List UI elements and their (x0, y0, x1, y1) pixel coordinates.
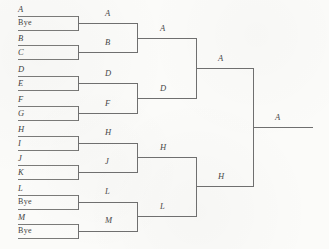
seed-label-bye: Bye (18, 198, 32, 206)
semifinal-winner-label: H (218, 172, 224, 181)
seed-label: D (18, 65, 24, 74)
seed-label: M (18, 213, 25, 222)
round3-winner-label: A (160, 24, 165, 33)
seed-label: L (18, 184, 23, 193)
round3-winner-label: D (160, 84, 166, 93)
bracket-lines (0, 0, 329, 249)
final-connector (254, 69, 313, 187)
seed-label: C (18, 48, 24, 57)
semifinal-winner-label: A (218, 54, 223, 63)
seed-label: F (18, 95, 23, 104)
round3-connectors (197, 39, 254, 217)
round2-winner-label: L (105, 187, 110, 196)
seed-label-bye: Bye (18, 19, 32, 27)
seed-label: K (18, 168, 24, 177)
tournament-bracket-diagram: A Bye B C D E F G H I J K L Bye M Bye A … (0, 0, 329, 249)
round3-winner-label: L (160, 202, 165, 211)
champion-label: A (275, 113, 280, 122)
seed-label: B (18, 34, 23, 43)
round2-winner-label: M (105, 216, 112, 225)
round2-connectors (138, 24, 197, 232)
seed-label: G (18, 109, 24, 118)
round2-winner-label: A (105, 9, 110, 18)
round3-winner-label: H (160, 143, 166, 152)
seed-label: H (18, 125, 24, 134)
seed-label: E (18, 79, 23, 88)
seed-label: J (18, 154, 22, 163)
round2-winner-label: B (105, 38, 110, 47)
round2-winner-label: F (105, 99, 110, 108)
round2-winner-label: D (105, 69, 111, 78)
round2-winner-label: H (105, 128, 111, 137)
seed-label: I (18, 139, 21, 148)
round2-winner-label: J (105, 157, 109, 166)
seed-label: A (18, 5, 23, 14)
seed-label-bye: Bye (18, 227, 32, 235)
